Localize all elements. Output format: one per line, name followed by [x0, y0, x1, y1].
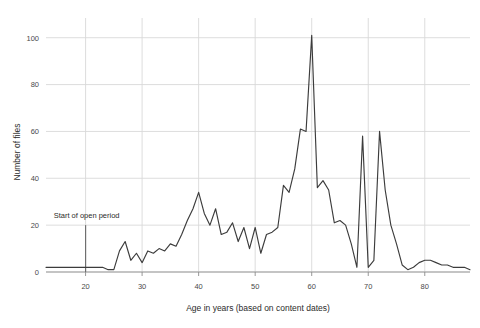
- x-tick-label-70: 70: [364, 282, 372, 291]
- x-tick-label-60: 60: [308, 282, 316, 291]
- x-tick-label-80: 80: [421, 282, 429, 291]
- x-axis-title: Age in years (based on content dates): [186, 303, 330, 313]
- y-axis-title: Number of files: [12, 123, 22, 180]
- vertical-gridlines: [86, 18, 425, 272]
- y-tick-label-40: 40: [31, 174, 39, 183]
- y-tick-label-0: 0: [35, 268, 39, 277]
- x-tick-label-30: 30: [138, 282, 146, 291]
- y-tick-label-60: 60: [31, 127, 39, 136]
- y-axis-tick-labels: 020406080100: [26, 34, 39, 277]
- x-tick-label-20: 20: [81, 282, 89, 291]
- x-axis-tick-labels: 20304050607080: [81, 282, 429, 291]
- chart-container: 020406080100 20304050607080 Start of ope…: [0, 0, 480, 328]
- x-tick-label-40: 40: [194, 282, 202, 291]
- data-series-line: [46, 35, 470, 269]
- line-chart: 020406080100 20304050607080 Start of ope…: [0, 0, 480, 328]
- y-tick-label-80: 80: [31, 80, 39, 89]
- horizontal-gridlines: [46, 38, 470, 272]
- x-tick-label-50: 50: [251, 282, 259, 291]
- y-tick-label-20: 20: [31, 221, 39, 230]
- annotation-layer: Start of open period: [54, 211, 120, 272]
- x-axis-tick-marks: [86, 272, 425, 276]
- y-tick-label-100: 100: [26, 34, 39, 43]
- start-of-open-period-label: Start of open period: [54, 211, 120, 220]
